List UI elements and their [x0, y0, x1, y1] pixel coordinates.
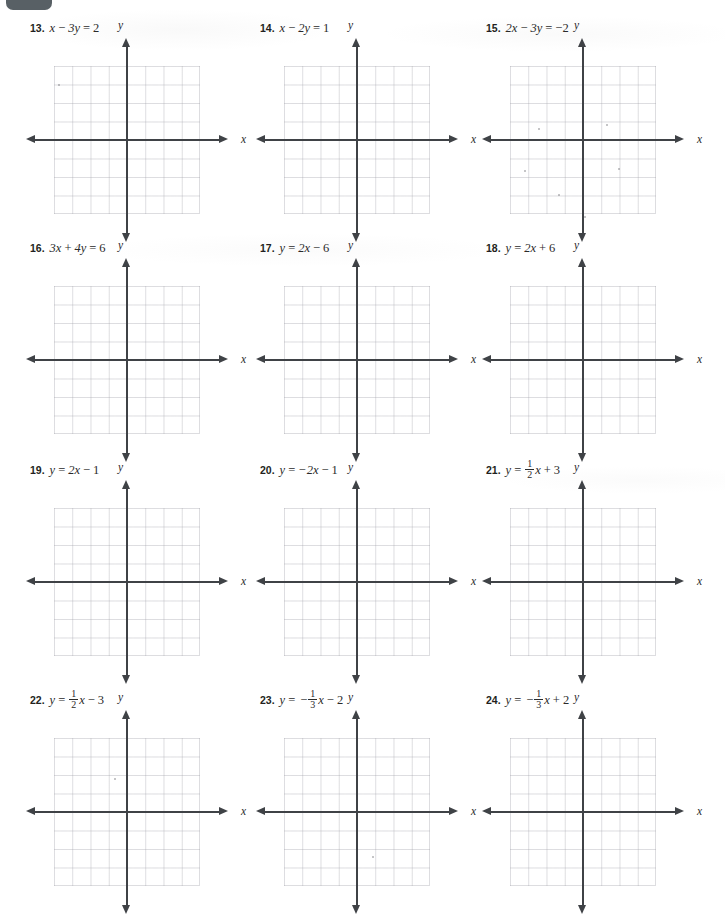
- x-axis-arrow-right: [675, 135, 684, 143]
- fraction-numerator: 1: [308, 689, 317, 699]
- problem-prompt: 16.3x+4y=6: [22, 238, 254, 258]
- equation-token: =: [514, 693, 521, 707]
- y-axis-line: [582, 266, 584, 454]
- equation-token: =: [288, 693, 295, 707]
- y-axis-line: [126, 266, 128, 454]
- equation-token: 1: [323, 21, 329, 35]
- y-axis-arrow-up: [578, 480, 586, 489]
- x-axis-arrow-right: [675, 355, 684, 363]
- equation-token: y: [280, 693, 286, 707]
- equation-token: −: [58, 21, 65, 35]
- problem-19: 19.y=2x−1xy: [22, 460, 254, 666]
- equation-token: =: [58, 463, 65, 477]
- equation-token: =: [313, 21, 320, 35]
- y-axis-arrow-up: [352, 710, 360, 719]
- y-axis-line: [356, 718, 358, 906]
- coordinate-graph[interactable]: xy: [252, 710, 484, 896]
- problem-number: 13.: [30, 21, 45, 35]
- y-axis-arrow-up: [122, 480, 130, 489]
- equation-token: x: [318, 693, 324, 707]
- problem-prompt: 19.y=2x−1: [22, 460, 254, 480]
- y-axis-arrow-up: [122, 38, 130, 47]
- y-axis-arrow-down: [352, 905, 360, 914]
- problem-prompt: 20.y=−2x−1: [252, 460, 484, 480]
- equation-token: =: [545, 21, 552, 35]
- equation-token: =: [514, 463, 521, 477]
- equation-token: +: [539, 241, 546, 255]
- scan-speck: [606, 124, 608, 126]
- fraction-numerator: 1: [525, 459, 534, 469]
- equation-token: y: [280, 463, 286, 477]
- equation-token: x: [280, 21, 286, 35]
- problem-number: 18.: [486, 241, 501, 255]
- y-axis-label: y: [574, 239, 579, 251]
- equation-token: −: [313, 241, 320, 255]
- coordinate-graph[interactable]: xy: [22, 710, 254, 896]
- x-axis-label: x: [471, 575, 476, 587]
- scan-speck: [584, 216, 586, 218]
- y-axis-arrow-up: [578, 258, 586, 267]
- coordinate-graph[interactable]: xy: [478, 258, 710, 444]
- problem-21: 21.y=12x+3xy: [478, 460, 710, 666]
- equation-token: 2x: [298, 241, 310, 255]
- equation-token: x: [79, 693, 85, 707]
- y-axis-label: y: [574, 461, 579, 473]
- x-axis-arrow-left: [256, 355, 265, 363]
- y-axis-line: [582, 718, 584, 906]
- problem-number: 23.: [260, 693, 275, 707]
- equation-token: 3y: [68, 21, 80, 35]
- x-axis-label: x: [697, 353, 702, 365]
- worksheet-problem-grid: 13.x−3y=2xy14.x−2y=1xy15.2x−3y=−2xy16.3x…: [0, 0, 725, 924]
- problem-number: 24.: [486, 693, 501, 707]
- x-axis-arrow-right: [449, 807, 458, 815]
- coordinate-graph[interactable]: xy: [22, 258, 254, 444]
- coordinate-graph[interactable]: xy: [22, 480, 254, 666]
- y-axis-arrow-down: [122, 905, 130, 914]
- problem-22: 22.y=12x−3xy: [22, 690, 254, 896]
- y-axis-arrow-up: [352, 258, 360, 267]
- fraction-numerator: 1: [534, 689, 543, 699]
- equation-token: 2: [93, 21, 99, 35]
- coordinate-graph[interactable]: xy: [478, 480, 710, 666]
- problem-prompt: 14.x−2y=1: [252, 18, 484, 38]
- y-axis-line: [356, 488, 358, 676]
- x-axis-arrow-right: [219, 807, 228, 815]
- x-axis-arrow-right: [219, 135, 228, 143]
- problem-13: 13.x−3y=2xy: [22, 18, 254, 224]
- y-axis-line: [126, 718, 128, 906]
- equation-token: +: [64, 241, 71, 255]
- coordinate-graph[interactable]: xy: [478, 38, 710, 224]
- y-axis-label: y: [348, 691, 353, 703]
- equation-token: 2: [337, 693, 343, 707]
- problem-number: 15.: [486, 21, 501, 35]
- coordinate-graph[interactable]: xy: [252, 38, 484, 224]
- y-axis-label: y: [574, 691, 579, 703]
- coordinate-graph[interactable]: xy: [22, 38, 254, 224]
- equation: y=−13x+2: [506, 689, 570, 710]
- x-axis-label: x: [471, 353, 476, 365]
- scan-speck: [538, 128, 540, 130]
- problem-20: 20.y=−2x−1xy: [252, 460, 484, 666]
- problem-number: 16.: [30, 241, 45, 255]
- problem-23: 23.y=−13x−2xy: [252, 690, 484, 896]
- x-axis-label: x: [697, 575, 702, 587]
- coordinate-graph[interactable]: xy: [252, 258, 484, 444]
- equation-token: 2: [563, 693, 569, 707]
- y-axis-arrow-up: [352, 480, 360, 489]
- equation-token: =: [89, 241, 96, 255]
- coordinate-graph[interactable]: xy: [478, 710, 710, 896]
- problem-prompt: 18.y=2x+6: [478, 238, 710, 258]
- fraction-denominator: 3: [534, 700, 543, 710]
- equation-token: 6: [99, 241, 105, 255]
- x-axis-label: x: [471, 805, 476, 817]
- equation-token: =: [288, 463, 295, 477]
- x-axis-arrow-left: [256, 577, 265, 585]
- equation-token: 2y: [298, 21, 310, 35]
- coordinate-graph[interactable]: xy: [252, 480, 484, 666]
- x-axis-label: x: [241, 353, 246, 365]
- x-axis-label: x: [471, 133, 476, 145]
- equation-token: 3x: [50, 241, 62, 255]
- equation-token: −: [88, 693, 95, 707]
- fraction-denominator: 2: [525, 470, 534, 480]
- equation-token: 3y: [530, 21, 542, 35]
